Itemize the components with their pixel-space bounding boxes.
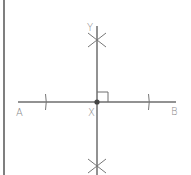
- label-x: X: [88, 107, 95, 118]
- perpendicular-construction-diagram: Y A X B: [0, 0, 191, 175]
- label-b: B: [171, 106, 178, 117]
- point-x-dot: [94, 99, 99, 104]
- label-a: A: [16, 107, 23, 118]
- label-y: Y: [87, 22, 93, 33]
